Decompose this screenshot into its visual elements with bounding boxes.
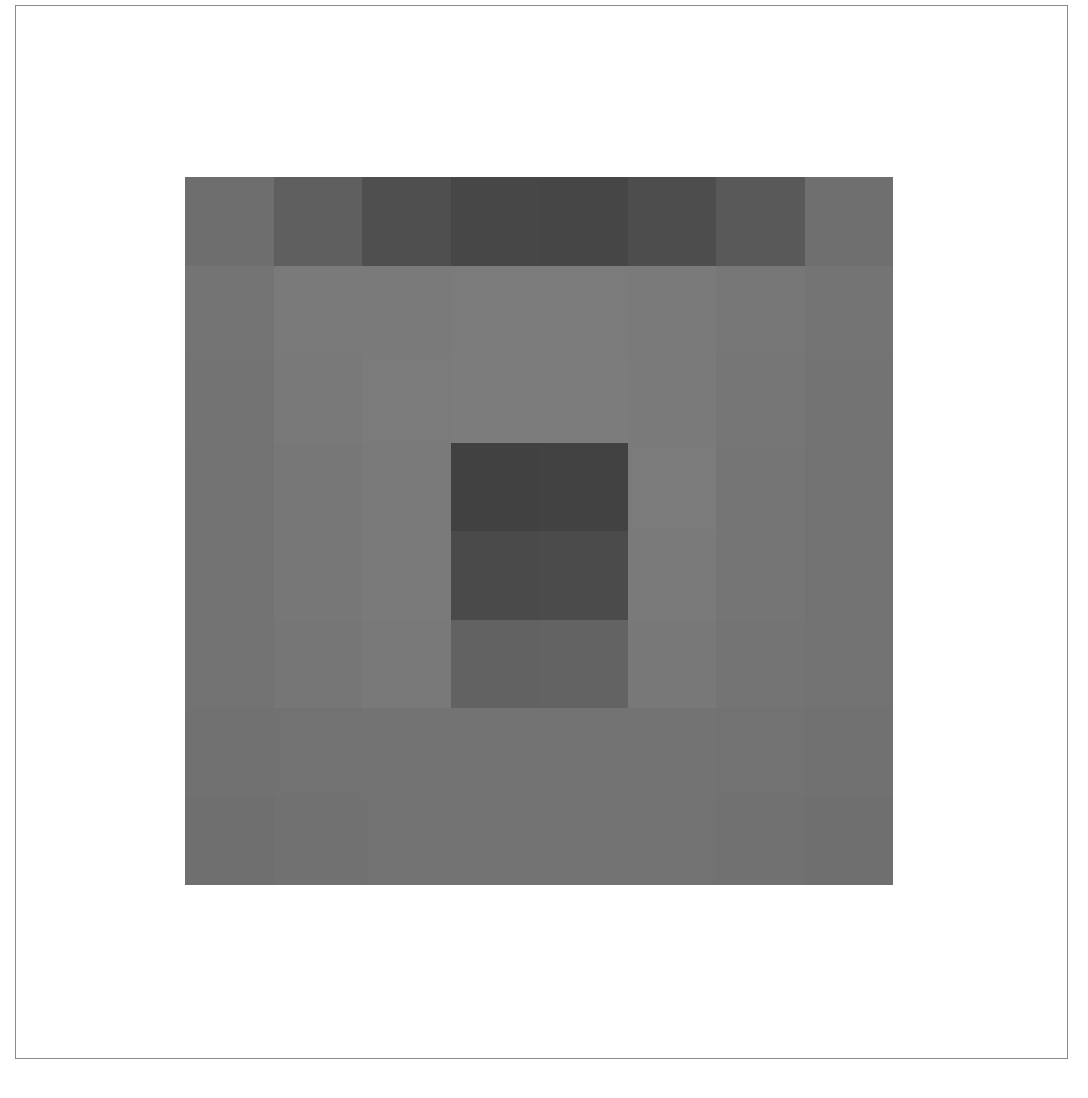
grid-cell <box>362 443 451 532</box>
grid-cell <box>274 266 363 355</box>
grid-cell <box>539 797 628 886</box>
grid-cell <box>539 177 628 266</box>
grid-cell <box>451 708 540 797</box>
grid-cell <box>628 443 717 532</box>
grid-cell <box>716 797 805 886</box>
grid-cell <box>451 620 540 709</box>
grid-cell <box>805 620 894 709</box>
grid-cell <box>805 797 894 886</box>
grid-cell <box>362 708 451 797</box>
grid-cell <box>451 531 540 620</box>
grid-cell <box>539 443 628 532</box>
grid-cell <box>628 354 717 443</box>
grid-cell <box>185 266 274 355</box>
grid-cell <box>451 797 540 886</box>
grid-cell <box>185 443 274 532</box>
grid-cell <box>362 266 451 355</box>
grid-cell <box>716 708 805 797</box>
grid-cell <box>274 797 363 886</box>
grid-cell <box>451 443 540 532</box>
grid-cell <box>805 354 894 443</box>
grid-cell <box>805 266 894 355</box>
grid-cell <box>716 443 805 532</box>
grid-cell <box>716 531 805 620</box>
grid-cell <box>185 354 274 443</box>
grid-cell <box>628 620 717 709</box>
grid-cell <box>274 354 363 443</box>
grid-cell <box>628 266 717 355</box>
grid-cell <box>716 266 805 355</box>
grid-cell <box>539 266 628 355</box>
grid-cell <box>451 354 540 443</box>
grid-cell <box>539 354 628 443</box>
grid-cell <box>539 620 628 709</box>
grid-cell <box>451 177 540 266</box>
grid-cell <box>539 531 628 620</box>
grid-cell <box>716 177 805 266</box>
grid-cell <box>451 266 540 355</box>
grid-cell <box>185 177 274 266</box>
grid-cell <box>628 177 717 266</box>
grid-cell <box>185 531 274 620</box>
grid-artwork <box>185 177 893 885</box>
grid-cell <box>628 708 717 797</box>
grid-cell <box>805 708 894 797</box>
grid-cell <box>362 354 451 443</box>
grid-cell <box>362 531 451 620</box>
grid-cell <box>185 620 274 709</box>
grid-cell <box>628 797 717 886</box>
grid-cell <box>362 797 451 886</box>
grid-cell <box>274 531 363 620</box>
grid-cell <box>274 708 363 797</box>
grid-cell <box>274 177 363 266</box>
grid-cell <box>274 620 363 709</box>
grid-cell <box>805 531 894 620</box>
grid-cell <box>539 708 628 797</box>
grid-cell <box>185 708 274 797</box>
grid-cell <box>628 531 717 620</box>
grid-cell <box>716 620 805 709</box>
grid-cell <box>362 620 451 709</box>
grid-cell <box>362 177 451 266</box>
grid-cell <box>185 797 274 886</box>
grid-cell <box>274 443 363 532</box>
grid-cell <box>805 443 894 532</box>
grid-cell <box>716 354 805 443</box>
grid-cell <box>805 177 894 266</box>
